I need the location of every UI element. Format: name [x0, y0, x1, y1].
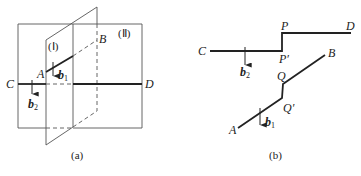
caption-a: (a) — [71, 149, 84, 162]
point-q-prime-label: Q′ — [283, 101, 295, 115]
point-d-label: D — [144, 77, 154, 91]
vector-b1-label: b1 — [58, 68, 68, 83]
point-a-label-b: A — [228, 123, 237, 137]
plane-1 — [46, 7, 97, 145]
point-d-label-b: D — [345, 19, 355, 33]
point-c-label: C — [6, 77, 15, 91]
figure-b: C P D P′ B Q Q′ A b2 b1 (b) — [198, 19, 355, 162]
vector-b2-label: b2 — [28, 97, 38, 112]
point-b-label-b: B — [328, 46, 336, 60]
point-a-label: A — [36, 67, 45, 81]
plane-2-label: (Ⅱ) — [118, 27, 131, 40]
vector-b1-label-b: b1 — [265, 115, 275, 130]
caption-b: (b) — [269, 149, 282, 162]
point-p-label: P — [280, 19, 289, 33]
point-q-label: Q — [277, 69, 286, 83]
figure-a: (Ⅰ) (Ⅱ) B A C D b1 b2 (a) — [6, 7, 154, 162]
plane-1-label: (Ⅰ) — [48, 40, 59, 53]
point-c-label-b: C — [198, 44, 207, 58]
point-p-prime-label: P′ — [278, 52, 289, 66]
diagram-canvas: (Ⅰ) (Ⅱ) B A C D b1 b2 (a) C P D P′ B Q Q… — [0, 0, 361, 176]
point-b-label: B — [99, 32, 107, 46]
vector-b2-label-b: b2 — [240, 65, 250, 80]
